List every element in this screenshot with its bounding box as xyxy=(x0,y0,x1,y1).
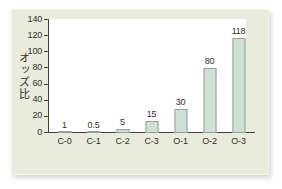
bar xyxy=(145,121,158,133)
y-axis-tick-label: 120 xyxy=(16,31,42,40)
bar-value-label: 0.5 xyxy=(88,121,100,130)
y-axis-tick-label: 0 xyxy=(16,128,42,137)
bar-value-label: 1 xyxy=(62,121,67,130)
x-axis-category-label: C-1 xyxy=(79,136,108,146)
bar-value-label: 118 xyxy=(232,27,246,36)
x-axis-category-label: C-3 xyxy=(137,136,166,146)
bar-value-label: 80 xyxy=(205,57,215,66)
bar-value-label: 5 xyxy=(120,118,125,127)
x-axis-category-label: C-2 xyxy=(108,136,137,146)
bar xyxy=(58,131,71,133)
x-axis-category-label: O-1 xyxy=(166,136,195,146)
bar-group: 0.5 xyxy=(79,19,108,133)
y-axis-title: オッズ比 xyxy=(17,52,30,100)
figure-root: 020406080100120140 オッズ比 10.55153080118 C… xyxy=(0,0,282,189)
bar xyxy=(232,38,245,133)
x-axis-category-labels: C-0C-1C-2C-3O-1O-2O-3 xyxy=(48,136,255,150)
bar-group: 118 xyxy=(224,19,253,133)
bar-value-label: 30 xyxy=(176,98,186,107)
y-axis-tick-label: 20 xyxy=(16,111,42,120)
bar-group: 80 xyxy=(195,19,224,133)
bar-group: 30 xyxy=(166,19,195,133)
bar-group: 5 xyxy=(108,19,137,133)
bar-group: 1 xyxy=(50,19,79,133)
bar xyxy=(87,131,100,133)
bar xyxy=(203,68,216,133)
bar xyxy=(174,109,187,133)
bar xyxy=(116,129,129,133)
x-axis-category-label: O-2 xyxy=(195,136,224,146)
bar-group: 15 xyxy=(137,19,166,133)
y-axis-tick-label: 140 xyxy=(16,15,42,24)
x-axis-category-label: O-3 xyxy=(224,136,253,146)
bars-layer: 10.55153080118 xyxy=(48,19,255,133)
x-axis-category-label: C-0 xyxy=(50,136,79,146)
bar-value-label: 15 xyxy=(147,110,157,119)
